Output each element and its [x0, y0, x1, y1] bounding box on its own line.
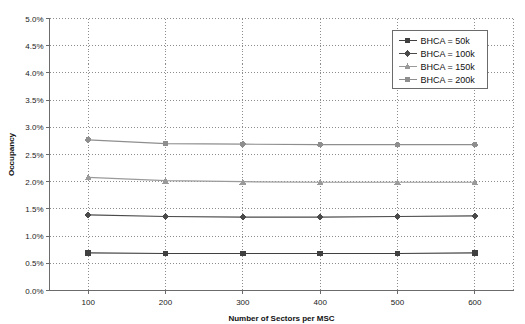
- data-point-marker-square: [472, 250, 478, 256]
- legend-item-label: BHCA = 150k: [421, 62, 476, 72]
- legend-item-label: BHCA = 200k: [421, 75, 476, 85]
- y-axis-title: Occupancy: [7, 132, 16, 176]
- y-tick-label: 0.5%: [25, 259, 43, 268]
- data-point-marker-square: [163, 251, 169, 257]
- y-tick-label: 0.0%: [25, 287, 43, 296]
- legend-item-label: BHCA = 100k: [421, 49, 476, 59]
- x-tick-label: 500: [391, 298, 405, 307]
- chart-container: 0.0%0.5%1.0%1.5%2.0%2.5%3.0%3.5%4.0%4.5%…: [0, 0, 525, 324]
- data-point-marker-circle: [472, 142, 478, 148]
- data-point-marker-circle: [395, 142, 401, 148]
- data-point-marker-square: [317, 251, 323, 257]
- x-axis-title: Number of Sectors per MSC: [228, 314, 334, 323]
- x-tick-label: 100: [81, 298, 95, 307]
- y-tick-label: 5.0%: [25, 15, 43, 24]
- chart-legend[interactable]: BHCA = 50kBHCA = 100kBHCA = 150kBHCA = 2…: [393, 31, 488, 89]
- data-point-marker-circle: [405, 77, 411, 83]
- legend-item-label: BHCA = 50k: [421, 36, 471, 46]
- data-point-marker-circle: [240, 141, 246, 147]
- y-tick-label: 2.0%: [25, 178, 43, 187]
- data-point-marker-circle: [85, 137, 91, 143]
- y-tick-label: 4.5%: [25, 42, 43, 51]
- x-tick-label: 200: [159, 298, 173, 307]
- occupancy-line-chart: 0.0%0.5%1.0%1.5%2.0%2.5%3.0%3.5%4.0%4.5%…: [0, 0, 525, 324]
- y-tick-label: 4.0%: [25, 69, 43, 78]
- x-tick-label: 300: [236, 298, 250, 307]
- x-tick-label: 400: [313, 298, 327, 307]
- data-point-marker-circle: [317, 142, 323, 148]
- y-tick-label: 1.0%: [25, 232, 43, 241]
- data-point-marker-circle: [163, 141, 169, 147]
- series-line: [88, 253, 475, 254]
- x-tick-label: 600: [468, 298, 482, 307]
- y-tick-label: 3.0%: [25, 123, 43, 132]
- y-tick-label: 1.5%: [25, 205, 43, 214]
- data-point-marker-square: [395, 251, 401, 257]
- y-tick-label: 2.5%: [25, 151, 43, 160]
- data-point-marker-square: [85, 250, 91, 256]
- data-point-marker-square: [240, 251, 246, 257]
- y-tick-label: 3.5%: [25, 96, 43, 105]
- data-point-marker-square: [405, 38, 411, 44]
